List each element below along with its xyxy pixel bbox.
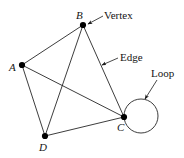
edge-a-d [22,65,45,136]
vertices-group [19,22,127,139]
vertex-dot-d [42,133,48,139]
vertex-label-c: C [117,122,124,133]
annotation-label-edge: Edge [120,52,143,63]
loop-edge-c [124,99,158,133]
annotation-label-vertex: Vertex [104,10,133,21]
edges-group [22,25,124,136]
edge-b-c [83,25,124,117]
graph-canvas [0,0,184,158]
graph-diagram-figure: ABCD VertexEdgeLoop [0,0,184,158]
vertex-label-a: A [9,62,16,73]
vertex-label-d: D [39,142,47,153]
loop-group [124,99,158,133]
annotation-arrow-vertex [88,16,103,24]
edge-b-d [45,25,83,136]
annotation-arrow-loop [145,80,157,99]
annotation-arrow-edge [102,58,118,65]
edge-a-c [22,65,124,117]
edge-a-b [22,25,83,65]
vertex-dot-b [80,22,86,28]
vertex-label-b: B [76,10,83,21]
annotation-label-loop: Loop [151,68,174,79]
edge-d-c [45,117,124,136]
vertex-dot-a [19,62,25,68]
vertex-dot-c [121,114,127,120]
